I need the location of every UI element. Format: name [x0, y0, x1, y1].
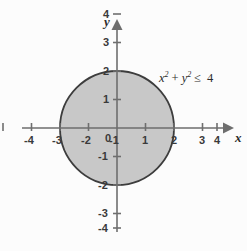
equation-y-exponent: 2 — [187, 70, 191, 79]
y-tick-label--3: -3 — [98, 208, 108, 219]
inequality-annotation: x2+y2≤4 — [159, 72, 216, 85]
equation-x-exponent: 2 — [165, 70, 169, 79]
y-tick-label--1: -1 — [98, 151, 108, 162]
y-tick-label-3: 3 — [103, 37, 109, 48]
x-tick-label-4: 4 — [214, 135, 220, 146]
x-axis-label: x — [235, 131, 242, 144]
x-tick-label-3: 3 — [199, 135, 205, 146]
x-tick-label-1: 1 — [142, 135, 148, 146]
y-tick-label--2: -2 — [98, 180, 108, 191]
coordinate-plane-figure: -4 -3 -2 -1 1 2 3 4 0 4 3 2 1 -1 -2 -3 -… — [0, 0, 247, 251]
equation-plus-sign: + — [172, 71, 179, 85]
x-tick-label-2: 2 — [171, 135, 177, 146]
y-tick-label--4: -4 — [98, 223, 108, 234]
x-tick-label--4: -4 — [24, 135, 34, 146]
x-axis-arrow-icon — [223, 123, 234, 134]
origin-label: 0 — [105, 133, 111, 144]
y-axis-arrow-icon — [112, 19, 123, 30]
x-tick-label--2: -2 — [81, 135, 91, 146]
equation-right-hand-side: 4 — [207, 71, 213, 85]
y-tick-label-2: 2 — [103, 66, 109, 77]
plot-svg — [0, 0, 247, 251]
y-tick-label-1: 1 — [103, 94, 109, 105]
y-axis-label: y — [104, 15, 110, 28]
equation-relation-sign: ≤ — [194, 71, 201, 85]
x-tick-label--3: -3 — [52, 135, 62, 146]
